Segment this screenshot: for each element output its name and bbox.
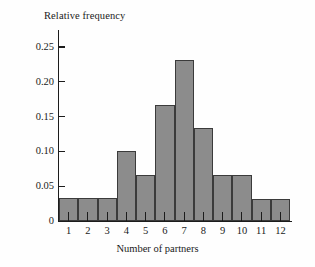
- y-axis-tick-label: 0.20: [14, 77, 54, 88]
- x-axis-tick: [280, 212, 281, 221]
- x-axis-line: [58, 221, 292, 222]
- histogram-bar: [117, 151, 136, 221]
- x-axis-tick-label: 12: [268, 225, 292, 237]
- x-axis-tick: [203, 212, 204, 221]
- y-axis-tick-label: 0.25: [14, 42, 54, 53]
- x-axis-tick: [261, 212, 262, 221]
- y-axis-tick-label: 0.15: [14, 112, 54, 123]
- x-axis-tick: [222, 212, 223, 221]
- x-axis-tick: [164, 212, 165, 221]
- x-axis-tick: [107, 212, 108, 221]
- x-axis-tick: [184, 212, 185, 221]
- x-axis-tick: [145, 212, 146, 221]
- histogram-figure: Relative frequency 00.050.100.150.200.25…: [0, 0, 315, 267]
- y-axis-tick-label: 0.05: [14, 181, 54, 192]
- histogram-bar: [175, 60, 194, 221]
- x-axis-tick: [68, 212, 69, 221]
- plot-area: [59, 30, 290, 221]
- x-axis-title: Number of partners: [0, 243, 315, 255]
- histogram-bar: [194, 128, 213, 221]
- x-axis-tick: [241, 212, 242, 221]
- y-axis-tick-label: 0.10: [14, 146, 54, 157]
- y-axis-title: Relative frequency: [44, 10, 125, 22]
- y-axis-tick-label: 0: [14, 216, 54, 227]
- y-axis-tick-labels: 00.050.100.150.200.25: [10, 0, 54, 267]
- x-axis-tick: [87, 212, 88, 221]
- x-axis-tick: [126, 212, 127, 221]
- histogram-bar: [155, 105, 174, 221]
